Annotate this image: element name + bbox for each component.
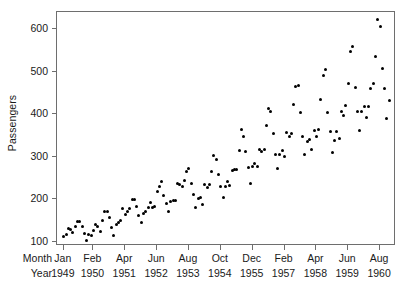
data-point bbox=[226, 180, 229, 183]
data-point bbox=[126, 210, 129, 213]
data-point bbox=[162, 194, 165, 197]
x-axis-row-caption-year: Year bbox=[2, 268, 52, 279]
data-point bbox=[158, 185, 161, 188]
data-point bbox=[313, 129, 316, 132]
y-axis-tick-label: 300 bbox=[18, 151, 48, 162]
data-point bbox=[108, 216, 111, 219]
data-point bbox=[217, 173, 220, 176]
x-axis-tick bbox=[379, 245, 380, 250]
data-point bbox=[156, 190, 159, 193]
data-point bbox=[121, 207, 124, 210]
data-point bbox=[374, 55, 377, 58]
data-point bbox=[181, 185, 184, 188]
x-axis-tick bbox=[252, 245, 253, 250]
data-point bbox=[281, 149, 284, 152]
data-point bbox=[74, 225, 77, 228]
data-point bbox=[106, 210, 109, 213]
data-point bbox=[90, 234, 93, 237]
data-point bbox=[388, 99, 391, 102]
data-point bbox=[153, 205, 156, 208]
data-point bbox=[369, 87, 372, 90]
data-point bbox=[367, 105, 370, 108]
data-point bbox=[269, 110, 272, 113]
data-point bbox=[331, 151, 334, 154]
data-point bbox=[65, 233, 68, 236]
data-point bbox=[274, 153, 277, 156]
data-point bbox=[349, 50, 352, 53]
y-axis-title-text: Passengers bbox=[6, 94, 18, 150]
scatter-plot-figure: Passengers 100200300400500600 Jan1949Feb… bbox=[0, 0, 411, 290]
data-point bbox=[297, 84, 300, 87]
x-axis-tick bbox=[315, 245, 316, 250]
data-point bbox=[383, 87, 386, 90]
data-point bbox=[199, 196, 202, 199]
data-point bbox=[128, 207, 131, 210]
y-axis-tick-label: 200 bbox=[18, 193, 48, 204]
x-axis-month-label: Aug bbox=[359, 253, 399, 264]
data-point bbox=[240, 128, 243, 131]
y-axis-tick-label: 400 bbox=[18, 108, 48, 119]
y-axis-tick-label: 100 bbox=[18, 236, 48, 247]
data-point bbox=[208, 183, 211, 186]
data-point bbox=[290, 132, 293, 135]
data-point bbox=[101, 219, 104, 222]
data-point bbox=[249, 182, 252, 185]
data-point bbox=[242, 135, 245, 138]
data-point bbox=[272, 132, 275, 135]
data-point bbox=[372, 82, 375, 85]
x-axis-tick bbox=[284, 245, 285, 250]
data-point bbox=[338, 137, 341, 140]
plot-area bbox=[56, 11, 395, 245]
data-point bbox=[149, 201, 152, 204]
x-axis-tick bbox=[220, 245, 221, 250]
data-point bbox=[194, 206, 197, 209]
data-point bbox=[85, 239, 88, 242]
data-point bbox=[187, 167, 190, 170]
data-point bbox=[201, 203, 204, 206]
x-axis-tick bbox=[156, 245, 157, 250]
x-axis-tick bbox=[347, 245, 348, 250]
data-point bbox=[317, 128, 320, 131]
data-point bbox=[303, 153, 306, 156]
data-point bbox=[228, 184, 231, 187]
data-point bbox=[340, 110, 343, 113]
data-point bbox=[78, 220, 81, 223]
data-point bbox=[356, 110, 359, 113]
data-point bbox=[365, 116, 368, 119]
data-point bbox=[265, 124, 268, 127]
data-point bbox=[347, 82, 350, 85]
y-axis-tick-label: 500 bbox=[18, 66, 48, 77]
data-point bbox=[135, 205, 138, 208]
data-point bbox=[160, 180, 163, 183]
data-point bbox=[326, 111, 329, 114]
data-point bbox=[315, 135, 318, 138]
data-point bbox=[192, 193, 195, 196]
data-point bbox=[96, 225, 99, 228]
data-point bbox=[147, 206, 150, 209]
data-point bbox=[140, 221, 143, 224]
data-point bbox=[385, 117, 388, 120]
data-point bbox=[329, 130, 332, 133]
data-point bbox=[99, 230, 102, 233]
data-point bbox=[165, 202, 168, 205]
data-point bbox=[222, 196, 225, 199]
x-axis-tick bbox=[92, 245, 93, 250]
data-point bbox=[212, 154, 215, 157]
data-point bbox=[119, 219, 122, 222]
data-point bbox=[358, 129, 361, 132]
data-point bbox=[92, 229, 95, 232]
data-point bbox=[71, 231, 74, 234]
x-axis-year-label: 1960 bbox=[359, 268, 399, 279]
data-point bbox=[247, 166, 250, 169]
data-point bbox=[167, 210, 170, 213]
data-point bbox=[344, 104, 347, 107]
data-point bbox=[224, 185, 227, 188]
data-point bbox=[190, 182, 193, 185]
data-point bbox=[310, 148, 313, 151]
data-point bbox=[351, 45, 354, 48]
data-point bbox=[292, 103, 295, 106]
data-point bbox=[174, 199, 177, 202]
data-point bbox=[322, 74, 325, 77]
data-point bbox=[133, 198, 136, 201]
data-point bbox=[379, 25, 382, 28]
